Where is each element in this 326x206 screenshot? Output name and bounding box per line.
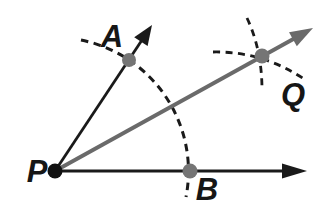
ray-PB-arrowhead-icon	[282, 164, 307, 179]
label-P: P	[27, 154, 48, 189]
bisector-ray-arrowhead-icon	[289, 28, 313, 46]
angle-bisector-construction-figure: A P B Q	[0, 0, 326, 206]
geometry-diagram: A P B Q	[0, 0, 326, 206]
point-P-dot	[48, 164, 63, 179]
point-A-dot	[122, 53, 136, 67]
label-Q: Q	[281, 77, 305, 112]
point-Q-dot	[255, 49, 270, 64]
label-A: A	[100, 19, 123, 54]
label-B: B	[196, 172, 218, 206]
ray-PA-arrowhead-icon	[134, 25, 152, 46]
